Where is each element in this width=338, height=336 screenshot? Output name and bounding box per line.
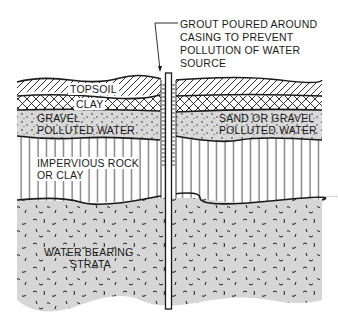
label-water-bearing: WATER BEARING: [44, 246, 134, 258]
callout-line-4: SOURCE: [180, 57, 317, 70]
callout-line-3: POLLUTION OF WATER: [180, 44, 317, 57]
label-polluted-water-right: POLLUTED WATER: [219, 124, 317, 136]
label-clay: CLAY: [74, 98, 105, 110]
label-gravel: GRAVEL: [37, 112, 80, 124]
callout-line-2: CASING TO PREVENT: [180, 31, 317, 44]
callout-line-1: GROUT POURED AROUND: [180, 18, 317, 31]
well-casing: [166, 73, 172, 309]
grout-callout: GROUT POURED AROUND CASING TO PREVENT PO…: [180, 18, 317, 70]
label-sand-or-gravel: SAND OR GRAVEL: [219, 112, 314, 124]
label-polluted-water-left: POLLUTED WATER: [37, 124, 135, 136]
label-topsoil: TOPSOIL: [68, 83, 119, 95]
label-or-clay: OR CLAY: [37, 169, 84, 181]
label-impervious-rock: IMPERVIOUS ROCK: [37, 157, 139, 169]
label-strata: STRATA: [70, 258, 111, 270]
well-diagram: GROUT POURED AROUND CASING TO PREVENT PO…: [0, 0, 338, 336]
